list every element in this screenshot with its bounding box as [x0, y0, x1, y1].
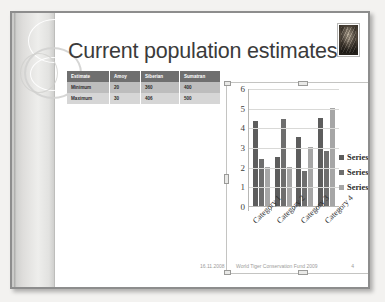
slide-stage: Current population estimates Estimate Am…: [0, 0, 385, 302]
cell-siberian: 406: [141, 93, 180, 104]
legend-swatch-icon: [339, 185, 344, 190]
circle-outer-icon: [20, 53, 58, 93]
chart-plot: [248, 89, 339, 207]
bar-1[interactable]: [318, 118, 323, 207]
page-title[interactable]: Current population estimates: [68, 39, 337, 64]
cell-label: Maximum: [67, 93, 110, 104]
column-header-sumatran: Sumatran: [180, 71, 221, 82]
legend-item[interactable]: Series 3: [339, 183, 368, 192]
chart-legend[interactable]: Series 1Series 2Series 3: [339, 153, 368, 198]
grid-line: [249, 89, 339, 90]
bar-2[interactable]: [281, 119, 286, 206]
bar-3[interactable]: [330, 108, 335, 206]
legend-swatch-icon: [339, 170, 344, 175]
legend-item[interactable]: Series 2: [339, 168, 368, 177]
legend-item[interactable]: Series 1: [339, 153, 368, 162]
grid-line: [249, 168, 339, 169]
y-tick-label: 2: [241, 163, 246, 173]
bar-2[interactable]: [259, 159, 264, 206]
bar-3[interactable]: [308, 147, 313, 206]
y-tick-label: 3: [241, 143, 246, 153]
chart-plot-area: 0123456 Category 1Category 2Category 3Ca…: [233, 89, 339, 223]
footer-page-number: 4: [351, 263, 354, 269]
slide-footer: 16.11.2008 World Tiger Conservation Fund…: [12, 263, 368, 273]
tiger-photo-thumbnail[interactable]: [338, 24, 359, 56]
population-estimates-table[interactable]: Estimate Amoy Siberian Sumatran Minimum …: [67, 71, 220, 104]
resize-handle-top-center[interactable]: [298, 81, 308, 86]
legend-label: Series 2: [347, 168, 368, 177]
grid-line: [249, 109, 339, 110]
resize-handle-top-left[interactable]: [224, 81, 231, 86]
column-header-siberian: Siberian: [141, 71, 180, 82]
grid-line: [249, 187, 339, 188]
decorative-sidebar-band: [12, 13, 55, 287]
cell-sumatran: 400: [180, 82, 221, 93]
cell-amoy: 30: [110, 93, 141, 104]
y-tick-label: 5: [241, 104, 246, 114]
table-row: Maximum 30 406 500: [67, 93, 220, 104]
x-tick: [248, 207, 249, 211]
column-header-estimate: Estimate: [67, 71, 110, 82]
y-tick-label: 4: [241, 123, 246, 133]
cell-sumatran: 500: [180, 93, 221, 104]
bar-1[interactable]: [253, 121, 258, 206]
y-axis-tick-labels: 0123456: [233, 89, 247, 207]
column-header-amoy: Amoy: [110, 71, 141, 82]
grid-line: [249, 148, 339, 149]
table-row: Minimum 20 360 400: [67, 82, 220, 93]
slide-frame: Current population estimates Estimate Am…: [10, 11, 370, 289]
table-header-row: Estimate Amoy Siberian Sumatran: [67, 71, 220, 82]
y-tick-label: 0: [241, 202, 246, 212]
legend-label: Series 1: [347, 153, 368, 162]
legend-label: Series 3: [347, 183, 368, 192]
cell-siberian: 360: [141, 82, 180, 93]
bar-3[interactable]: [287, 167, 292, 206]
cell-amoy: 20: [110, 82, 141, 93]
resize-handle-middle-left[interactable]: [224, 174, 229, 184]
footer-date: 16.11.2008: [200, 263, 225, 269]
slide-canvas[interactable]: Current population estimates Estimate Am…: [12, 13, 368, 287]
legend-swatch-icon: [339, 155, 344, 160]
chart-object[interactable]: 0123456 Category 1Category 2Category 3Ca…: [226, 82, 368, 274]
footer-text: World Tiger Conservation Fund 2009: [236, 263, 318, 269]
cell-label: Minimum: [67, 82, 110, 93]
y-tick-label: 1: [241, 182, 246, 192]
grid-line: [249, 128, 339, 129]
y-tick-label: 6: [241, 84, 246, 94]
